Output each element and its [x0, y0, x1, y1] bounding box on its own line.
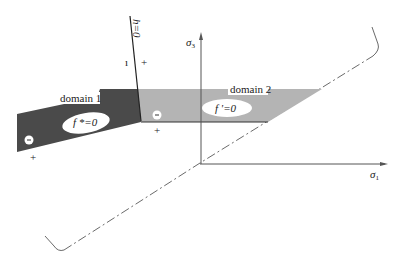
domain-1-surface-label: f *=0: [73, 116, 98, 128]
domain-2-surface-label: f '=0: [215, 102, 237, 114]
boundary-minus-side: ı: [125, 56, 128, 68]
sigma3-label: σ3: [186, 36, 195, 50]
domain-2-label: domain 2: [230, 83, 271, 95]
boundary-plus-side: +: [141, 56, 147, 68]
sigma1-axis: [200, 162, 388, 166]
hydrostatic-axis: [45, 27, 378, 251]
diagram-canvas: domain 1 domain 2 f *=0 f '=0 h=0 ı + + …: [0, 0, 406, 269]
sigma1-label: σ1: [370, 168, 379, 182]
domain-1-plus-marker: +: [30, 151, 36, 163]
domain-2-plus-marker: +: [154, 124, 160, 136]
domain-1-label: domain 1: [60, 92, 101, 104]
boundary-label: h=0: [131, 19, 143, 38]
